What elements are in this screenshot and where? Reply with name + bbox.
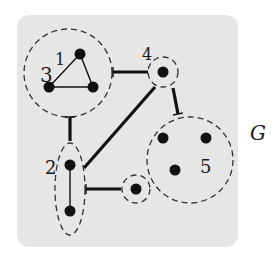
cluster-label: 1 — [55, 50, 65, 69]
vertex-v4 — [158, 67, 169, 78]
cluster-label: 2 — [45, 157, 56, 178]
cluster-label: 5 — [200, 156, 211, 177]
diagram-background — [17, 15, 238, 247]
graph-label-g: G — [250, 121, 266, 145]
vertex-v1 — [75, 49, 86, 60]
vertex-v5 — [65, 160, 76, 171]
vertex-v6 — [65, 206, 76, 217]
vertex-v8 — [158, 133, 169, 144]
cluster-graph-diagram: 31425G — [0, 0, 279, 254]
cluster-label: 3 — [40, 63, 53, 87]
cluster-label: 4 — [142, 45, 152, 64]
vertex-v7 — [131, 184, 142, 195]
vertex-v3 — [88, 82, 99, 93]
vertex-v10 — [170, 165, 181, 176]
gray-panel — [17, 15, 238, 247]
vertex-v9 — [201, 133, 212, 144]
